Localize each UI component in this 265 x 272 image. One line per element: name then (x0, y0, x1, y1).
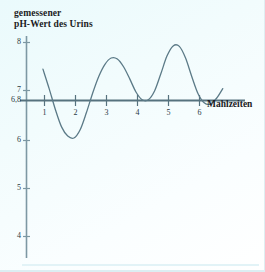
x-tick-label-6: 6 (193, 108, 206, 117)
y-tick-label-7: 7 (8, 85, 21, 94)
y-tick-label-4: 4 (8, 231, 21, 240)
x-tick-label-1: 1 (38, 108, 51, 117)
x-tick-label-3: 3 (100, 108, 113, 117)
y-tick-label-5: 5 (8, 183, 21, 192)
x-axis-label: Mahlzeiten (207, 99, 252, 109)
axes-group (20, 36, 245, 258)
x-tick-label-2: 2 (69, 108, 82, 117)
y-tick-label-6: 6 (8, 135, 21, 144)
y-tick-label-8: 8 (8, 37, 21, 46)
y-tick-label-6-8: 6,8 (1, 95, 21, 104)
page-bottom-edge (22, 264, 259, 266)
x-tick-label-4: 4 (131, 108, 144, 117)
ph-curve (43, 45, 223, 139)
x-tick-label-5: 5 (162, 108, 175, 117)
figure-frame: gemessener pH-Wert des Urins 8 7 6,8 6 5… (0, 0, 265, 272)
chart-plot (0, 0, 265, 272)
